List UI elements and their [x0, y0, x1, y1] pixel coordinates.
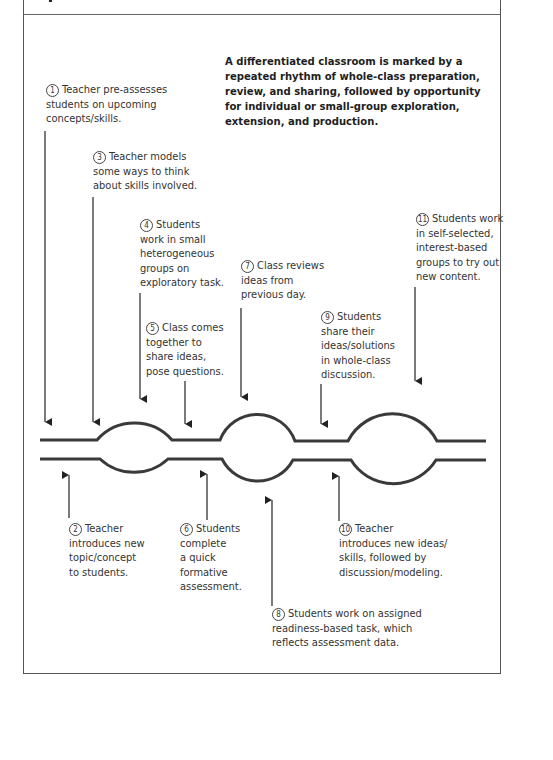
step-2-label: 2Teacher introduces new topic/concept to… — [69, 522, 145, 580]
step-number-badge: 8 — [272, 608, 285, 621]
step-7-label: 7Class reviews ideas from previous day. — [241, 259, 324, 303]
step-number-badge: 3 — [93, 151, 106, 164]
step-number-badge: 6 — [180, 523, 193, 536]
step-4-label: 4Students work in small heterogeneous gr… — [140, 218, 224, 291]
step-number-badge: 2 — [69, 523, 82, 536]
step-5-label: 5Class comes together to share ideas, po… — [146, 321, 224, 379]
step-6-label: 6Students complete a quick formative ass… — [180, 522, 242, 595]
step-1-label: 1Teacher pre-assesses students on upcomi… — [46, 83, 167, 127]
upper-channel-line — [40, 414, 486, 441]
step-number-badge: 5 — [146, 322, 159, 335]
lower-channel-line — [40, 459, 486, 484]
step-number-badge: 7 — [241, 260, 254, 273]
step-number-badge: 9 — [321, 311, 334, 324]
step-11-label: 11Students work in self-selected, intere… — [416, 212, 503, 285]
step-8-label: 8Students work on assigned readiness-bas… — [272, 607, 422, 651]
step-number-badge: 10 — [339, 523, 352, 536]
step-number-badge: 11 — [416, 213, 429, 226]
step-number-badge: 4 — [140, 219, 153, 232]
step-3-label: 3Teacher models some ways to think about… — [93, 150, 197, 194]
step-10-label: 10Teacher introduces new ideas/ skills, … — [339, 522, 447, 580]
step-number-badge: 1 — [46, 84, 59, 97]
step-9-label: 9Students share their ideas/solutions in… — [321, 310, 395, 383]
